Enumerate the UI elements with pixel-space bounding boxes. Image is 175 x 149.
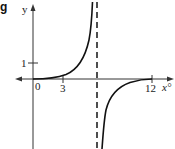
x-tick-label-3: 3 <box>60 83 66 94</box>
x-axis-label: x° <box>162 82 171 93</box>
x-tick-label-0: 0 <box>35 81 41 92</box>
curve-left-branch <box>33 2 93 79</box>
y-axis-label: y <box>22 4 28 15</box>
chart-plot <box>0 0 175 149</box>
y-axis-arrow-icon <box>31 4 36 11</box>
y-tick-label-1: 1 <box>21 58 27 69</box>
x-tick-label-12: 12 <box>145 83 156 94</box>
x-axis-left-arrow-icon <box>15 77 22 82</box>
